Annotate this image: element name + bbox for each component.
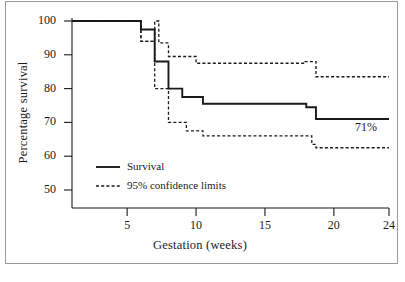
x-tick-label: 5	[112, 218, 142, 233]
y-tick-label: 90	[26, 47, 56, 62]
axes	[72, 18, 389, 208]
series-line	[72, 21, 389, 119]
series-line	[72, 21, 389, 77]
survival-chart-figure: Percentage survival Gestation (weeks) 50…	[0, 0, 405, 282]
x-tick-label: 20	[319, 218, 349, 233]
y-tick-label: 80	[26, 81, 56, 96]
y-tick-label: 60	[26, 148, 56, 163]
y-tick-label: 70	[26, 114, 56, 129]
x-tick-label: 10	[181, 218, 211, 233]
legend-swatches	[96, 167, 120, 186]
legend-item-label: 95% confidence limits	[127, 179, 226, 191]
x-tick-label: 15	[250, 218, 280, 233]
y-tick-label: 100	[26, 13, 56, 28]
legend-item-label: Survival	[127, 160, 164, 172]
x-axis-label: Gestation (weeks)	[110, 238, 290, 253]
x-tick-label: 24	[374, 218, 404, 233]
data-series	[72, 21, 389, 148]
y-tick-label: 50	[26, 182, 56, 197]
series-line	[72, 21, 389, 148]
y-axis-ticks	[64, 21, 72, 190]
final-survival-annotation: 71%	[355, 120, 377, 135]
x-axis-ticks	[127, 208, 389, 216]
